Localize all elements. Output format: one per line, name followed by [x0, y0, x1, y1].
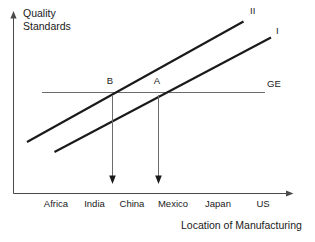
diagram-canvas: Quality Standards Location of Manufactur…	[0, 0, 315, 242]
quality-standards-diagram: Quality Standards Location of Manufactur…	[0, 0, 315, 242]
series-label-II: II	[250, 5, 255, 16]
x-tick-label-india: India	[84, 198, 105, 209]
series-label-I: I	[276, 25, 279, 36]
ge-label: GE	[267, 78, 281, 89]
x-tick-label-mexico: Mexico	[158, 198, 188, 209]
drop-arrow-a-head	[155, 176, 162, 185]
point-label-b: B	[107, 75, 113, 86]
x-tick-label-africa: Africa	[44, 198, 69, 209]
drop-arrow-b-head	[109, 176, 116, 185]
series-line-I	[55, 38, 272, 153]
x-axis-title: Location of Manufacturing	[181, 219, 302, 231]
y-axis-arrowhead	[10, 11, 16, 19]
y-axis-title-line1: Quality	[23, 7, 56, 19]
y-axis-title-line2: Standards	[23, 20, 71, 32]
x-tick-label-japan: Japan	[205, 198, 231, 209]
point-label-a: A	[154, 75, 161, 86]
series-line-II	[27, 22, 244, 143]
x-tick-label-us: US	[256, 198, 269, 209]
x-tick-label-china: China	[120, 198, 146, 209]
x-axis-arrowhead	[286, 190, 294, 196]
